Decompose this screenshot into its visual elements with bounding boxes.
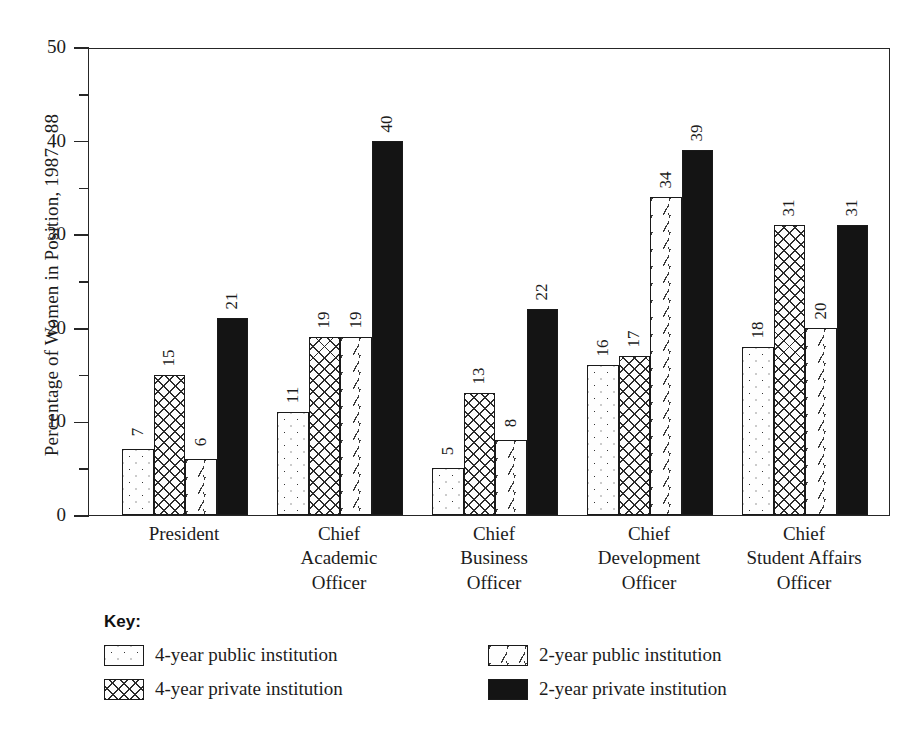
bar-value-label: 7 — [122, 416, 154, 446]
x-axis-category-line: President — [99, 522, 269, 546]
chart-legend: Key: 4-year public institution2-year pub… — [104, 612, 864, 704]
bar-value-label: 20 — [805, 295, 837, 325]
legend-rows: 4-year public institution2-year public i… — [104, 640, 864, 704]
legend-label: 4-year public institution — [155, 644, 338, 666]
y-tick-major — [74, 47, 89, 49]
x-axis-category-line: Chief — [254, 522, 424, 546]
bar-group: 715621 — [122, 47, 248, 515]
bar-value-label: 34 — [650, 164, 682, 194]
legend-item[interactable]: 4-year private institution — [104, 678, 474, 700]
bar[interactable] — [495, 440, 527, 515]
bar-group: 18312031 — [742, 47, 868, 515]
legend-label: 4-year private institution — [155, 678, 343, 700]
x-axis-category-label: ChiefBusinessOfficer — [409, 522, 579, 595]
bar-value-label: 21 — [217, 285, 249, 315]
bar-value-label: 19 — [309, 304, 341, 334]
bar[interactable] — [309, 337, 341, 515]
chart-figure: Percentage of Women in Position, 1987– 8… — [0, 0, 910, 733]
x-axis-category-line: Academic — [254, 546, 424, 570]
bar-value-label: 40 — [372, 108, 404, 138]
x-axis-category-line: Chief — [719, 522, 889, 546]
x-axis-category-line: Business — [409, 546, 579, 570]
bar[interactable] — [805, 328, 837, 515]
x-axis-category-line: Development — [564, 546, 734, 570]
x-axis-category-label: ChiefDevelopmentOfficer — [564, 522, 734, 595]
bar[interactable] — [464, 393, 496, 515]
legend-label: 2-year private institution — [539, 678, 727, 700]
x-axis-category-line: Officer — [564, 571, 734, 595]
bar[interactable] — [372, 141, 404, 515]
bar[interactable] — [837, 225, 869, 515]
x-axis-category-line: Chief — [564, 522, 734, 546]
x-axis-category-line: Officer — [409, 571, 579, 595]
y-tick-major — [74, 422, 89, 424]
bar-value-label: 15 — [154, 342, 186, 372]
plot-area: 715621111919405138221617343918312031 — [88, 48, 890, 516]
bar-value-label: 11 — [277, 379, 309, 409]
x-axis-category-label: President — [99, 522, 269, 546]
legend-swatch-dots-icon — [104, 645, 144, 666]
bar[interactable] — [650, 197, 682, 515]
bar-value-label: 8 — [495, 407, 527, 437]
bar[interactable] — [185, 459, 217, 515]
legend-row: 4-year private institution2-year private… — [104, 674, 864, 704]
bar-value-label: 5 — [432, 435, 464, 465]
bar[interactable] — [682, 150, 714, 515]
bar-value-label: 39 — [682, 117, 714, 147]
x-axis-category-label: ChiefStudent AffairsOfficer — [719, 522, 889, 595]
legend-item[interactable]: 4-year public institution — [104, 644, 474, 666]
y-axis-title: Percentage of Women in Position, 1987– 8… — [41, 45, 63, 525]
bar-value-label: 16 — [587, 332, 619, 362]
bar-value-label: 18 — [742, 314, 774, 344]
bar[interactable] — [432, 468, 464, 515]
legend-label: 2-year public institution — [539, 644, 722, 666]
y-tick-major — [74, 328, 89, 330]
bar-value-label: 31 — [774, 192, 806, 222]
bar[interactable] — [774, 225, 806, 515]
bar-value-label: 13 — [464, 360, 496, 390]
legend-item[interactable]: 2-year private institution — [488, 678, 858, 700]
bar-group: 513822 — [432, 47, 558, 515]
bar-value-label: 31 — [837, 192, 869, 222]
bar[interactable] — [587, 365, 619, 515]
legend-item[interactable]: 2-year public institution — [488, 644, 858, 666]
y-tick-major — [74, 515, 89, 517]
x-axis-category-line: Student Affairs — [719, 546, 889, 570]
bar[interactable] — [619, 356, 651, 515]
bar[interactable] — [154, 375, 186, 515]
bar[interactable] — [122, 449, 154, 515]
y-tick-major — [74, 234, 89, 236]
legend-row: 4-year public institution2-year public i… — [104, 640, 864, 670]
bar-value-label: 19 — [340, 304, 372, 334]
bar-value-label: 22 — [527, 276, 559, 306]
bar[interactable] — [217, 318, 249, 515]
x-axis-category-line: Chief — [409, 522, 579, 546]
bar-group: 11191940 — [277, 47, 403, 515]
x-axis-category-line: Officer — [254, 571, 424, 595]
legend-title: Key: — [104, 612, 864, 632]
bar[interactable] — [527, 309, 559, 515]
bar-group: 16173439 — [587, 47, 713, 515]
bar-value-label: 6 — [185, 426, 217, 456]
bar-value-label: 17 — [619, 323, 651, 353]
x-axis-category-label: ChiefAcademicOfficer — [254, 522, 424, 595]
legend-swatch-crosshatch-icon — [104, 679, 144, 700]
legend-swatch-solid-black-icon — [488, 679, 528, 700]
bar[interactable] — [277, 412, 309, 515]
legend-swatch-dashes-icon — [488, 645, 528, 666]
bar[interactable] — [340, 337, 372, 515]
bar[interactable] — [742, 347, 774, 515]
y-tick-major — [74, 141, 89, 143]
x-axis-category-line: Officer — [719, 571, 889, 595]
